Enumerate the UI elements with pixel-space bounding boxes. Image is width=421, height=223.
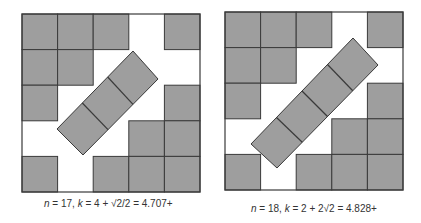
unit-square <box>22 14 58 50</box>
unit-square <box>332 154 368 190</box>
unit-square <box>225 83 261 119</box>
unit-square <box>22 50 58 86</box>
caption-n17: n = 17, k = 4 + √2/2 = 4.707+ <box>44 198 173 209</box>
n-value: = 17, <box>50 198 78 209</box>
unit-square <box>58 50 94 86</box>
unit-square <box>261 48 297 84</box>
unit-square <box>332 119 368 155</box>
unit-square <box>93 156 129 192</box>
unit-square <box>225 12 261 48</box>
unit-square <box>164 121 200 157</box>
k-expression: = 2 + 2√2 = 4.828+ <box>290 203 377 214</box>
unit-square <box>367 83 403 119</box>
unit-square <box>58 14 94 50</box>
unit-square <box>225 48 261 84</box>
unit-square <box>225 154 261 190</box>
packing-diagrams <box>0 0 421 223</box>
unit-square <box>367 12 403 48</box>
unit-square <box>164 14 200 50</box>
unit-square <box>129 156 165 192</box>
unit-square <box>296 12 332 48</box>
n-value: = 18, <box>257 203 285 214</box>
unit-square <box>296 154 332 190</box>
unit-square <box>164 85 200 121</box>
unit-square <box>164 156 200 192</box>
unit-square <box>22 156 58 192</box>
unit-square <box>367 154 403 190</box>
unit-square <box>261 12 297 48</box>
unit-square <box>367 119 403 155</box>
k-expression: = 4 + √2/2 = 4.707+ <box>83 198 173 209</box>
unit-square <box>22 85 58 121</box>
caption-n18: n = 18, k = 2 + 2√2 = 4.828+ <box>251 203 377 214</box>
unit-square <box>93 14 129 50</box>
unit-square <box>129 121 165 157</box>
